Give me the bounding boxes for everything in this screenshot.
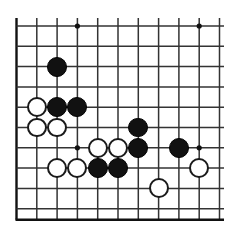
- star-point: [197, 23, 202, 28]
- white-stone[interactable]: [27, 118, 47, 138]
- white-stone[interactable]: [47, 158, 67, 178]
- star-point: [75, 145, 80, 150]
- star-point: [197, 145, 202, 150]
- white-stone[interactable]: [108, 138, 128, 158]
- white-stone[interactable]: [88, 138, 108, 158]
- white-stone[interactable]: [27, 97, 47, 117]
- black-stone[interactable]: [88, 158, 108, 178]
- black-stone[interactable]: [47, 57, 67, 77]
- black-stone[interactable]: [128, 138, 148, 158]
- black-stone[interactable]: [169, 138, 189, 158]
- black-stone[interactable]: [108, 158, 128, 178]
- white-stone[interactable]: [149, 178, 169, 198]
- go-board-diagram: [0, 0, 224, 239]
- star-point: [75, 23, 80, 28]
- grid-lines: [16, 18, 225, 220]
